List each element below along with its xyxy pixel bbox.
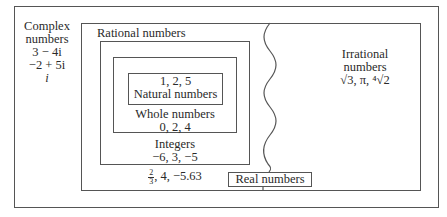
rational-numbers-label: Rational numbers <box>97 27 186 40</box>
integers-examples: −6, 3, −5 <box>100 151 250 164</box>
natural-label: Natural numbers <box>128 88 223 101</box>
rational-examples-rest: , 4, −5.63 <box>154 169 202 183</box>
integers-text: Integers −6, 3, −5 <box>100 138 250 164</box>
whole-numbers-text: Whole numbers 0, 2, 4 <box>113 108 237 134</box>
real-numbers-label: Real numbers <box>228 173 312 186</box>
natural-numbers-text: 1, 2, 5 Natural numbers <box>128 75 223 101</box>
irrational-numbers-text: Irrational numbers √3, π, ⁴√2 <box>300 48 430 87</box>
whole-examples: 0, 2, 4 <box>113 121 237 134</box>
irrational-examples: √3, π, ⁴√2 <box>300 74 430 87</box>
